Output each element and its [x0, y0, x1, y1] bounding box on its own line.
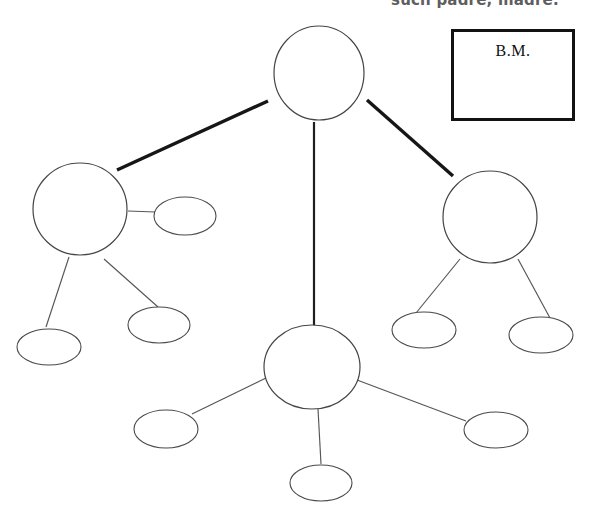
right-branch-node[interactable] — [443, 171, 537, 263]
left-side-leaf[interactable] — [154, 197, 216, 235]
link-left-to-side-leaf — [128, 211, 155, 212]
right-branch-node-shape[interactable] — [443, 171, 537, 263]
left-lower-leaf-1[interactable] — [17, 329, 81, 365]
legend-box[interactable]: B.M. — [451, 29, 575, 121]
left-branch-node-shape[interactable] — [33, 163, 127, 255]
right-lower-leaf-1[interactable] — [392, 312, 456, 348]
center-bottom-leaf-shape[interactable] — [290, 465, 352, 501]
center-lower-leaf-left-shape[interactable] — [134, 410, 198, 448]
center-bottom-leaf[interactable] — [290, 465, 352, 501]
center-lower-leaf-left[interactable] — [134, 410, 198, 448]
worksheet-page: such padre, madre. B.M. — [0, 0, 599, 527]
link-center-to-leaf-left — [192, 377, 268, 414]
right-lower-leaf-2-shape[interactable] — [509, 317, 573, 353]
center-branch-node[interactable] — [264, 325, 360, 409]
links-layer — [46, 100, 550, 464]
left-side-leaf-shape[interactable] — [154, 197, 216, 235]
link-root-to-right — [367, 100, 453, 176]
left-lower-leaf-2-shape[interactable] — [128, 307, 190, 343]
right-lower-leaf-1-shape[interactable] — [392, 312, 456, 348]
link-root-to-left — [117, 101, 268, 170]
left-lower-leaf-2[interactable] — [128, 307, 190, 343]
root-node-shape[interactable] — [274, 26, 364, 120]
center-lower-leaf-right-shape[interactable] — [464, 412, 528, 448]
link-right-to-leaf-2 — [518, 259, 550, 318]
left-branch-node[interactable] — [33, 163, 127, 255]
link-center-to-bottom — [318, 409, 321, 464]
link-left-to-leaf-2 — [104, 259, 158, 307]
link-center-to-leaf-right — [357, 380, 466, 421]
right-lower-leaf-2[interactable] — [509, 317, 573, 353]
root-node[interactable] — [274, 26, 364, 120]
center-branch-node-shape[interactable] — [264, 325, 360, 409]
link-right-to-leaf-1 — [416, 259, 460, 313]
link-left-to-leaf-1 — [46, 257, 69, 327]
legend-box-label: B.M. — [454, 42, 572, 60]
center-lower-leaf-right[interactable] — [464, 412, 528, 448]
left-lower-leaf-1-shape[interactable] — [17, 329, 81, 365]
